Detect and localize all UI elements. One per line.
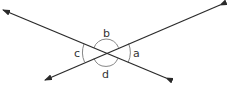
arc-b: [94, 39, 119, 48]
angle-label-d: d: [102, 68, 109, 81]
diagram-svg: b c a d: [0, 0, 233, 89]
line-2: [45, 5, 220, 80]
angle-label-c: c: [74, 47, 80, 60]
line-1: [3, 10, 166, 78]
arc-c: [82, 44, 84, 62]
arc-a: [128, 44, 130, 63]
angle-label-a: a: [133, 47, 140, 60]
intersecting-lines-diagram: b c a d: [0, 0, 233, 89]
angle-label-b: b: [103, 27, 110, 40]
arc-d: [94, 58, 118, 66]
